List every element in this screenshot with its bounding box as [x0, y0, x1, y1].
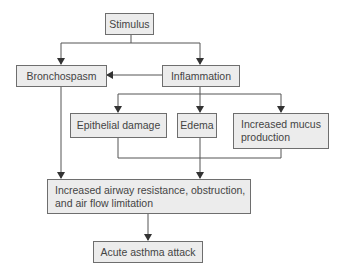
node-label: Increased mucus production — [241, 118, 324, 144]
asthma-flowchart: Stimulus Bronchospasm Inflammation Epith… — [0, 0, 339, 273]
node-airway-resistance: Increased airway resistance, obstruction… — [47, 179, 251, 214]
node-inflammation: Inflammation — [162, 65, 240, 87]
node-label: Acute asthma attack — [100, 246, 195, 259]
node-label: Edema — [180, 119, 213, 132]
node-edema: Edema — [177, 113, 217, 138]
node-label: Inflammation — [171, 70, 231, 83]
node-label: Epithelial damage — [77, 119, 160, 132]
node-label: Increased airway resistance, obstruction… — [55, 184, 246, 210]
node-bronchospasm: Bronchospasm — [16, 65, 107, 87]
node-label: Stimulus — [109, 18, 149, 31]
node-increased-mucus: Increased mucus production — [233, 113, 329, 149]
node-epithelial-damage: Epithelial damage — [70, 113, 167, 138]
node-acute-asthma-attack: Acute asthma attack — [93, 241, 203, 263]
node-stimulus: Stimulus — [105, 13, 154, 35]
node-label: Bronchospasm — [26, 70, 96, 83]
